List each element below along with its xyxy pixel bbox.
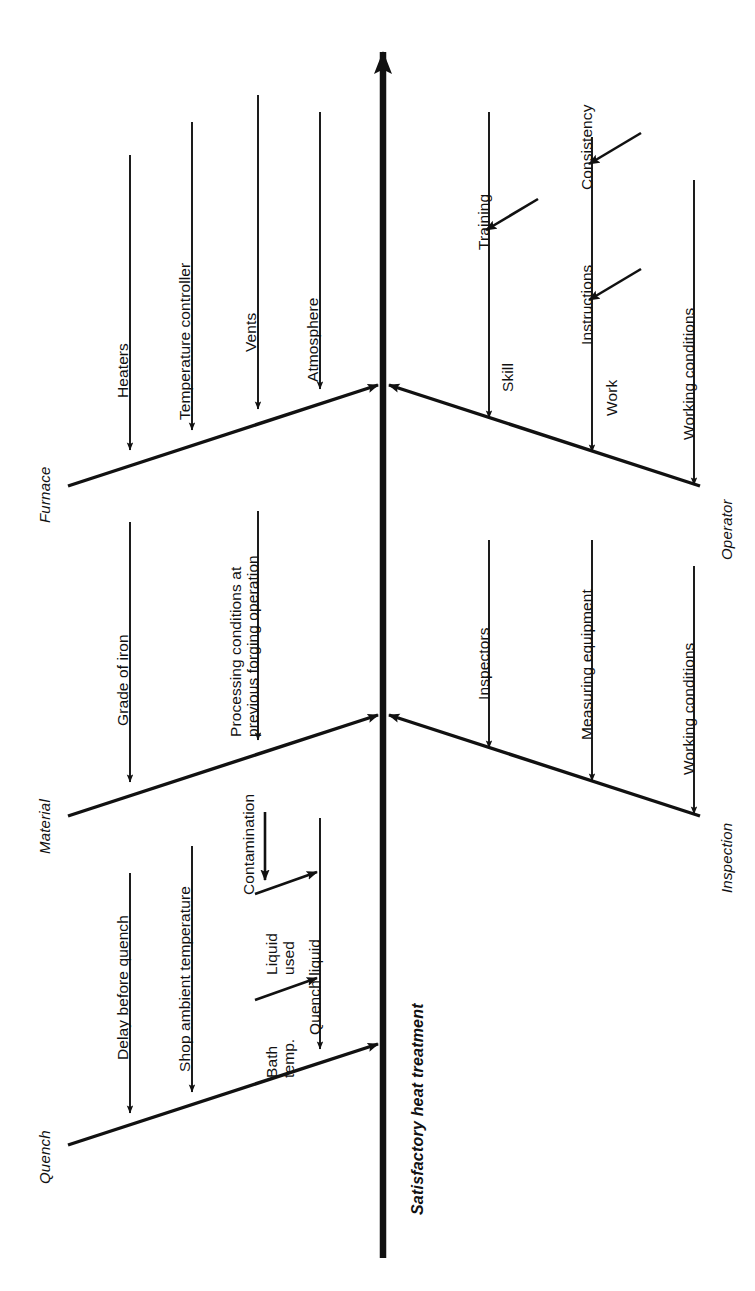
furnace-bone	[68, 385, 378, 486]
sub-label-bath-temp-line2: temp.	[281, 1039, 298, 1078]
cause-label-shop-ambient-temperature: Shop ambient temperature	[176, 886, 193, 1072]
category-label-material: Material	[36, 799, 53, 854]
sub-bone-consistency	[589, 133, 641, 164]
category-label-quench: Quench	[36, 1130, 53, 1184]
sub-bone-training	[486, 199, 538, 230]
sub-label-instructions: Instructions	[578, 265, 595, 345]
sub-label-consistency: Consistency	[578, 104, 595, 190]
cause-label-delay-before-quench: Delay before quench	[114, 915, 131, 1060]
inspection-bone	[389, 715, 700, 816]
category-label-operator: Operator	[718, 499, 735, 560]
category-label-furnace: Furnace	[36, 467, 53, 523]
sub-label-contamination: Contamination	[240, 794, 257, 895]
cause-label-working-conditions-operator: Working conditions	[680, 308, 697, 440]
material-bone	[68, 715, 378, 816]
sub-label-bath-temp-line1: Bath	[264, 1046, 281, 1078]
category-bone-inspection	[389, 540, 700, 816]
effect-label: Satisfactory heat treatment	[409, 1003, 427, 1215]
cause-label-heaters: Heaters	[114, 343, 131, 398]
cause-label-grade-of-iron: Grade of iron	[114, 634, 131, 726]
cause-label-atmosphere: Atmosphere	[304, 297, 321, 382]
category-bone-operator	[389, 112, 700, 486]
cause-label-temperature-controller: Temperature controller	[176, 263, 193, 420]
category-label-inspection: Inspection	[718, 823, 735, 893]
sub-label-liquid-used-line1: Liquid	[264, 933, 281, 975]
cause-label-work: Work	[603, 380, 620, 416]
cause-label-vents: Vents	[242, 313, 259, 352]
cause-label-measuring-equipment: Measuring equipment	[578, 589, 595, 740]
cause-label-processing-conditions-line2: previous forging operation	[245, 555, 262, 737]
cause-label-quench-liquid: Quench liquid	[306, 939, 323, 1035]
sub-label-liquid-used-line2: used	[281, 941, 298, 975]
cause-label-processing-conditions-line1: Processing conditions at	[228, 567, 245, 737]
cause-label-inspectors: Inspectors	[475, 627, 492, 700]
sub-bone-instructions	[589, 269, 641, 300]
operator-bone	[389, 385, 700, 486]
category-bone-furnace	[68, 95, 378, 486]
cause-label-working-conditions-inspection: Working conditions	[680, 643, 697, 775]
sub-label-training: Training	[475, 194, 492, 250]
fishbone-diagram: Satisfactory heat treatment Furnace Mate…	[0, 0, 755, 1291]
cause-label-skill: Skill	[499, 363, 516, 392]
